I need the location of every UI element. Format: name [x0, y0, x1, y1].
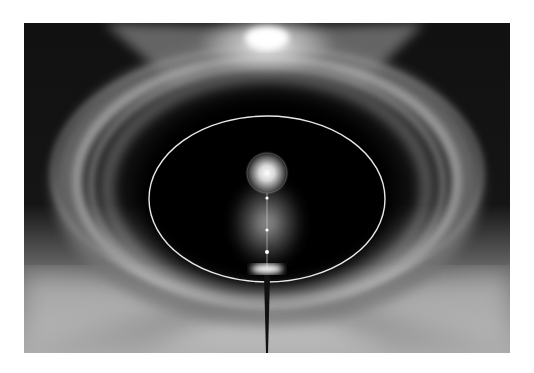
artwork-canvas — [24, 23, 510, 353]
dot — [265, 250, 269, 254]
top-starburst-core — [245, 26, 289, 50]
abstract-light-artwork — [24, 23, 510, 353]
dot — [265, 228, 268, 231]
dot — [265, 196, 268, 199]
bottom-glow — [251, 264, 283, 274]
glowing-orb — [245, 151, 289, 195]
